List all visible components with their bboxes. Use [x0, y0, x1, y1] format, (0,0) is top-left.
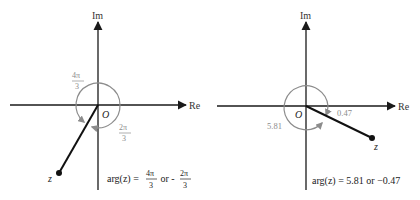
right-negative-angle-label: 0.47	[337, 108, 352, 118]
left-caption-middle: or -	[158, 173, 175, 184]
argand-diagrams: Im Re O z 4π 3 2π 3 arg(z) = 4π 3 or - 2…	[0, 0, 420, 200]
right-caption: arg(z) = 5.81 or −0.47	[312, 175, 400, 187]
right-im-label: Im	[300, 10, 311, 21]
left-im-label: Im	[92, 10, 103, 21]
left-caption-frac1-num: 4π	[146, 169, 154, 178]
right-origin-label: O	[295, 109, 302, 120]
left-caption-prefix: arg(z) =	[107, 173, 141, 185]
left-caption: arg(z) = 4π 3 or - 2π 3	[107, 169, 191, 190]
right-argand-diagram: Im Re O z 5.81 0.47 arg(z) = 5.81 or −0.…	[217, 10, 410, 190]
left-caption-frac2-num: 2π	[180, 169, 188, 178]
left-caption-frac1-den: 3	[149, 181, 153, 190]
right-positive-angle-label: 5.81	[267, 121, 282, 131]
left-point-z	[56, 170, 62, 176]
left-negative-angle-num: 2π	[119, 123, 127, 132]
left-negative-angle-den: 3	[122, 134, 126, 143]
right-negative-angle-arc	[326, 106, 328, 115]
left-caption-frac2-den: 3	[183, 181, 187, 190]
left-z-label: z	[47, 173, 52, 184]
right-z-label: z	[373, 141, 378, 152]
left-positive-angle-num: 4π	[72, 71, 80, 80]
left-re-label: Re	[189, 100, 201, 111]
left-argand-diagram: Im Re O z 4π 3 2π 3 arg(z) = 4π 3 or - 2…	[10, 10, 201, 190]
left-positive-angle-den: 3	[75, 82, 79, 91]
right-re-label: Re	[398, 101, 410, 112]
left-origin-label: O	[102, 109, 109, 120]
